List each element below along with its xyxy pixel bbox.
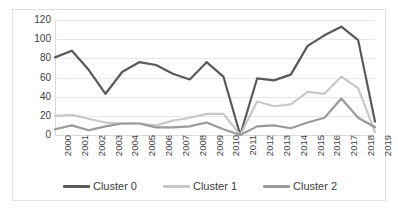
y-axis-tick-label: 60 (17, 73, 51, 83)
x-axis-tick-label: 2016 (331, 135, 342, 177)
y-axis-tick-label: 100 (17, 34, 51, 44)
legend-swatch-icon (163, 185, 190, 188)
x-axis-tick-label: 2003 (113, 135, 124, 177)
x-axis-tick-label: 2010 (230, 135, 241, 177)
legend-swatch-icon (63, 185, 90, 188)
legend-item-cluster-0[interactable]: Cluster 0 (63, 180, 137, 192)
x-axis-tick-label: 2011 (247, 135, 258, 177)
x-axis-tick-label: 2004 (129, 135, 140, 177)
x-axis-tick-label: 2014 (298, 135, 309, 177)
x-axis-tick-label: 2018 (365, 135, 376, 177)
y-axis-tick-label: 20 (17, 111, 51, 121)
legend-label: Cluster 0 (93, 180, 137, 192)
plot-area (55, 20, 375, 135)
x-axis-tick-labels: 2000200120022003200420052006200720082009… (55, 137, 375, 179)
y-axis-tick-labels: 020406080100120 (13, 20, 51, 135)
chart-container: 020406080100120 200020012002200320042005… (12, 9, 386, 201)
x-axis-tick-label: 2009 (214, 135, 225, 177)
x-axis-tick-label: 2001 (79, 135, 90, 177)
x-axis-tick-label: 2012 (264, 135, 275, 177)
x-axis-tick-label: 2013 (281, 135, 292, 177)
legend-item-cluster-1[interactable]: Cluster 1 (163, 180, 237, 192)
legend-item-cluster-2[interactable]: Cluster 2 (263, 180, 337, 192)
y-axis-tick-label: 120 (17, 15, 51, 25)
legend-label: Cluster 2 (293, 180, 337, 192)
y-axis-tick-label: 0 (17, 130, 51, 140)
x-axis-tick-label: 2017 (348, 135, 359, 177)
legend-swatch-icon (263, 185, 290, 188)
y-axis-tick-label: 80 (17, 53, 51, 63)
x-axis-tick-label: 2007 (180, 135, 191, 177)
x-axis-tick-label: 2006 (163, 135, 174, 177)
x-axis-tick-label: 2015 (315, 135, 326, 177)
series-line-cluster-0 (55, 27, 375, 135)
x-axis-tick-label: 2005 (146, 135, 157, 177)
chart-legend: Cluster 0Cluster 1Cluster 2 (13, 180, 387, 192)
x-axis-tick-label: 2008 (197, 135, 208, 177)
x-axis-tick-label: 2002 (96, 135, 107, 177)
x-axis-tick-label: 2019 (382, 135, 393, 177)
x-axis-tick-label: 2000 (62, 135, 73, 177)
series-line-cluster-2 (55, 99, 375, 135)
y-axis-tick-label: 40 (17, 92, 51, 102)
legend-label: Cluster 1 (193, 180, 237, 192)
series-lines (55, 20, 375, 135)
